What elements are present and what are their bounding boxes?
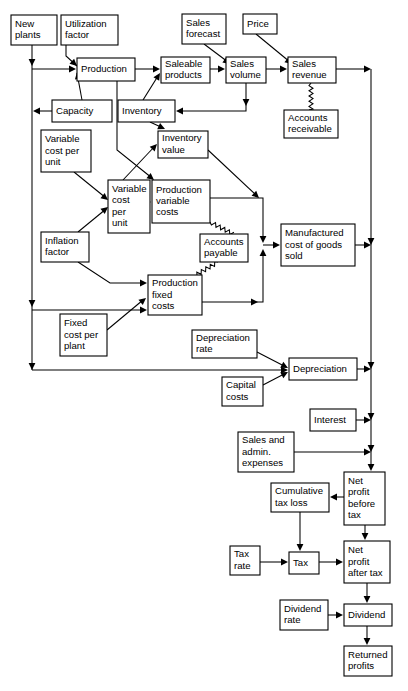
node-dividend[interactable]: Dividend bbox=[344, 604, 392, 626]
node-label-dividend: Dividend bbox=[348, 609, 385, 620]
node-inflation[interactable]: Inflationfactor bbox=[41, 232, 89, 262]
node-label-returned_profits: profits bbox=[348, 660, 374, 671]
node-label-prod_fixed_costs: fixed bbox=[152, 289, 172, 300]
node-tax[interactable]: Tax bbox=[289, 552, 319, 574]
arrowhead-volume-down bbox=[243, 99, 250, 106]
node-label-inflation: Inflation bbox=[45, 235, 79, 246]
node-price[interactable]: Price bbox=[243, 14, 277, 34]
arrowhead-bus-down-2 bbox=[29, 300, 36, 307]
node-label-returned_profits: Returned bbox=[348, 649, 387, 660]
node-tax_rate[interactable]: Taxrate bbox=[230, 546, 260, 575]
node-label-var_cost_unit_1: cost per bbox=[45, 145, 80, 156]
node-label-sales_forecast: Sales bbox=[186, 17, 210, 28]
node-net_profit_after[interactable]: Netprofitafter tax bbox=[344, 541, 390, 583]
arrowhead-prodvar-collector bbox=[260, 236, 267, 243]
node-label-var_cost_unit_2: unit bbox=[112, 217, 128, 228]
node-prod_var_costs[interactable]: Productionvariablecosts bbox=[152, 180, 210, 223]
node-depreciation_rate[interactable]: Depreciationrate bbox=[192, 330, 257, 358]
node-sales_forecast[interactable]: Salesforecast bbox=[182, 14, 226, 44]
node-label-dividend_rate: rate bbox=[284, 614, 301, 625]
inventory-to-saleable bbox=[143, 76, 158, 100]
node-net_profit_before[interactable]: Netprofitbeforetax bbox=[344, 472, 385, 525]
node-label-tax_rate: Tax bbox=[234, 548, 249, 559]
node-mfg_cost[interactable]: Manufacturedcost of goodssold bbox=[281, 224, 355, 266]
node-label-prod_fixed_costs: costs bbox=[152, 300, 175, 311]
node-label-var_cost_unit_1: Variable bbox=[45, 133, 80, 144]
node-fixed_cost_plant[interactable]: Fixedcost perplant bbox=[60, 314, 107, 356]
node-label-accounts_recv: Accounts bbox=[288, 112, 328, 123]
node-depreciation[interactable]: Depreciation bbox=[289, 358, 357, 380]
node-sales_admin[interactable]: Sales andadmin.expenses bbox=[238, 432, 294, 472]
node-production[interactable]: Production bbox=[77, 58, 135, 81]
arrowhead-production-saleable bbox=[153, 66, 160, 73]
node-new_plants[interactable]: Newplants bbox=[11, 15, 57, 45]
node-label-sales_volume: Sales bbox=[230, 58, 254, 69]
node-sales_volume[interactable]: Salesvolume bbox=[226, 57, 266, 83]
arrowhead-netbefore-cumulative bbox=[330, 494, 337, 501]
node-accounts_pay[interactable]: Accountspayable bbox=[200, 234, 248, 262]
node-capital_costs[interactable]: Capitalcosts bbox=[222, 377, 263, 406]
node-accounts_recv[interactable]: Accountsreceivable bbox=[284, 110, 338, 138]
production-to-prod-var-costs bbox=[117, 81, 152, 178]
node-label-accounts_pay: payable bbox=[204, 247, 238, 258]
node-label-net_profit_before: before bbox=[348, 498, 375, 509]
node-utilization[interactable]: Utilizationfactor bbox=[61, 15, 118, 45]
node-label-cumulative_tax: tax loss bbox=[275, 497, 308, 508]
node-label-net_profit_before: Net bbox=[348, 475, 363, 486]
arrowhead-prodfixed-right bbox=[251, 299, 258, 306]
node-label-prod_var_costs: Production bbox=[156, 184, 202, 195]
node-label-depreciation: Depreciation bbox=[293, 363, 347, 374]
node-label-fixed_cost_plant: plant bbox=[64, 340, 85, 351]
arrowhead-rightbus-netprofitbefore bbox=[368, 464, 375, 471]
node-capacity[interactable]: Capacity bbox=[52, 100, 112, 122]
node-returned_profits[interactable]: Returnedprofits bbox=[344, 646, 392, 676]
node-label-capacity: Capacity bbox=[56, 105, 94, 116]
node-sales_revenue[interactable]: Salesrevenue bbox=[288, 57, 336, 83]
node-label-mfg_cost: cost of goods bbox=[285, 239, 342, 250]
node-label-sales_revenue: revenue bbox=[292, 69, 327, 80]
node-label-inventory_value: Inventory bbox=[162, 132, 202, 143]
node-label-tax_rate: rate bbox=[234, 560, 251, 571]
arrowhead-bus-production bbox=[69, 66, 76, 73]
node-label-production: Production bbox=[81, 63, 127, 74]
node-label-net_profit_after: Net bbox=[348, 544, 363, 555]
node-cumulative_tax[interactable]: Cumulativetax loss bbox=[271, 483, 329, 512]
arrowhead-revenue-rightbus bbox=[364, 66, 371, 73]
arrowhead-cumulative-tax bbox=[297, 544, 304, 551]
node-label-fixed_cost_plant: Fixed bbox=[64, 317, 87, 328]
arrowhead-bus-prod-fixed bbox=[140, 307, 147, 314]
node-var_cost_unit_1[interactable]: Variablecost perunit bbox=[41, 130, 91, 172]
node-prod_fixed_costs[interactable]: Productionfixedcosts bbox=[148, 275, 202, 315]
node-label-net_profit_after: profit bbox=[348, 556, 370, 567]
node-label-interest: Interest bbox=[314, 414, 346, 425]
node-saleable[interactable]: Saleableproducts bbox=[161, 57, 210, 83]
arrowhead-tax-netafter bbox=[336, 559, 343, 566]
arrowhead-prodfixed-collector bbox=[260, 249, 267, 256]
arrowhead-dividendrate-dividend bbox=[336, 612, 343, 619]
node-var_cost_unit_2[interactable]: Variablecostperunit bbox=[108, 180, 150, 233]
node-label-utilization: Utilization bbox=[65, 18, 107, 29]
inventory-value-to-mfg bbox=[208, 150, 257, 196]
node-label-tax: Tax bbox=[293, 557, 308, 568]
node-label-accounts_pay: Accounts bbox=[204, 236, 244, 247]
node-label-var_cost_unit_2: cost bbox=[112, 194, 130, 205]
node-label-sales_volume: volume bbox=[230, 69, 261, 80]
node-label-accounts_recv: receivable bbox=[288, 123, 332, 134]
arrowhead-inflation-prodfixed bbox=[140, 280, 147, 287]
node-label-inflation: factor bbox=[45, 246, 70, 257]
node-label-prod_var_costs: costs bbox=[156, 206, 179, 217]
node-label-var_cost_unit_2: Variable bbox=[112, 183, 147, 194]
node-label-fixed_cost_plant: cost per bbox=[64, 329, 99, 340]
node-dividend_rate[interactable]: Dividendrate bbox=[280, 600, 328, 630]
node-label-price: Price bbox=[247, 18, 269, 29]
arrowhead-volume-revenue bbox=[280, 66, 287, 73]
node-label-depreciation_rate: Depreciation bbox=[196, 332, 250, 343]
node-label-inventory: Inventory bbox=[122, 105, 162, 116]
flowchart-canvas: NewplantsUtilizationfactorSalesforecastP… bbox=[0, 0, 408, 691]
node-inventory[interactable]: Inventory bbox=[118, 100, 175, 122]
node-label-saleable: Saleable bbox=[165, 58, 202, 69]
arrowhead-dividend-returned bbox=[364, 638, 371, 645]
node-label-capital_costs: costs bbox=[226, 391, 249, 402]
node-inventory_value[interactable]: Inventoryvalue bbox=[158, 131, 208, 158]
node-interest[interactable]: Interest bbox=[310, 409, 356, 431]
